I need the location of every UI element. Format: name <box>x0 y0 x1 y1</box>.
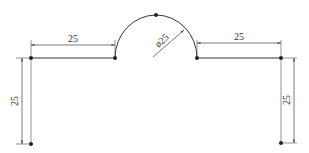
dim-text-left-horizontal: 25 <box>68 33 78 44</box>
dim-text-right-horizontal: 25 <box>234 31 244 42</box>
point-arc-left <box>113 56 117 60</box>
extension-lines <box>16 40 297 144</box>
point-left-bottom <box>29 142 33 146</box>
point-arc-top <box>154 13 158 17</box>
point-left-top <box>29 56 33 60</box>
point-right-top <box>279 56 283 60</box>
dimension-drawing: 25 25 25 25 ø25 <box>0 0 309 153</box>
dim-text-left-vertical: 25 <box>9 96 20 106</box>
point-right-bottom <box>279 141 283 145</box>
semicircle-arc <box>115 15 197 58</box>
dim-text-right-vertical: 25 <box>281 95 292 105</box>
dim-text-arc-diameter: ø25 <box>152 31 171 49</box>
point-arc-right <box>195 56 199 60</box>
